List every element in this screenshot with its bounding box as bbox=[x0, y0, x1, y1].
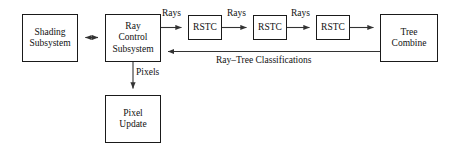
node-rstc-2-label: RSTC bbox=[258, 22, 282, 33]
diagram-canvas: Shading Subsystem Ray Control Subsystem … bbox=[0, 0, 454, 151]
node-pixel-update: Pixel Update bbox=[105, 95, 161, 143]
node-rstc-1-label: RSTC bbox=[193, 22, 217, 33]
node-tree-combine: Tree Combine bbox=[380, 14, 438, 62]
node-tree-combine-line2: Combine bbox=[392, 38, 427, 49]
node-ray-control-subsystem-line1: Ray bbox=[125, 21, 140, 32]
node-tree-combine-line1: Tree bbox=[400, 27, 417, 38]
node-pixel-update-line2: Update bbox=[119, 119, 146, 130]
node-rstc-3-label: RSTC bbox=[321, 22, 345, 33]
edge-label-rays-1: Rays bbox=[162, 9, 181, 19]
edge-label-ray-tree-classifications: Ray–Tree Classifications bbox=[216, 56, 311, 66]
node-ray-control-subsystem-line3: Subsystem bbox=[112, 44, 153, 55]
node-shading-subsystem-line1: Shading bbox=[34, 27, 65, 38]
edge-label-pixels: Pixels bbox=[136, 68, 159, 78]
node-shading-subsystem: Shading Subsystem bbox=[22, 14, 78, 62]
edge-label-rays-2: Rays bbox=[227, 9, 246, 19]
node-shading-subsystem-line2: Subsystem bbox=[29, 38, 70, 49]
node-ray-control-subsystem-line2: Control bbox=[118, 32, 147, 43]
node-rstc-1: RSTC bbox=[188, 15, 222, 40]
node-ray-control-subsystem: Ray Control Subsystem bbox=[105, 14, 161, 62]
node-rstc-3: RSTC bbox=[316, 15, 350, 40]
edge-label-rays-3: Rays bbox=[291, 9, 310, 19]
node-pixel-update-line1: Pixel bbox=[123, 108, 143, 119]
node-rstc-2: RSTC bbox=[253, 15, 287, 40]
